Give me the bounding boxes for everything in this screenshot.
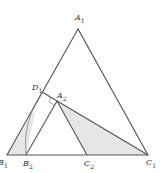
label-subscript: 1 [152, 162, 156, 169]
label-subscript: 2 [90, 163, 94, 170]
label-subscript: 2 [29, 163, 33, 170]
label-d1: D1 [32, 84, 42, 94]
label-b2: B2 [23, 160, 33, 170]
label-a1: A1 [75, 14, 85, 24]
label-b1: B1 [0, 159, 8, 169]
label-subscript: 1 [81, 17, 85, 24]
diagram-canvas [0, 0, 161, 173]
label-subscript: 1 [4, 162, 8, 169]
geometry-diagram: A1 D1 A2 B1 B2 C2 C1 [0, 0, 161, 173]
label-c2: C2 [84, 160, 94, 170]
label-c1: C1 [146, 159, 156, 169]
label-subscript: 2 [63, 95, 67, 102]
label-a2: A2 [57, 92, 67, 102]
label-subscript: 1 [38, 87, 42, 94]
